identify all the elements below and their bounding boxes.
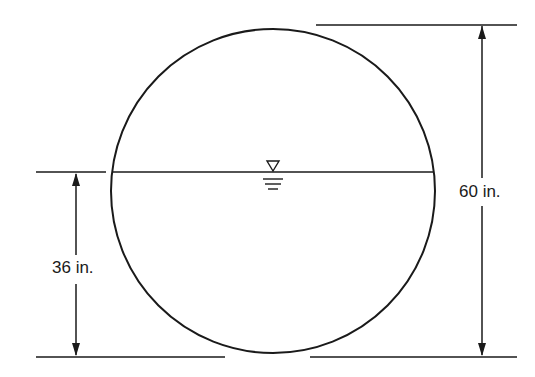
arrowhead-down-icon [72, 343, 80, 356]
arrowhead-up-icon [72, 173, 80, 186]
arrowhead-up-icon [478, 26, 486, 39]
water-surface-symbol-icon [263, 161, 283, 189]
pipe-cross-section-diagram [0, 0, 535, 377]
pipe-circle [111, 29, 435, 353]
depth-label: 36 in. [51, 258, 95, 278]
diameter-label: 60 in. [458, 182, 502, 202]
arrowhead-down-icon [478, 343, 486, 356]
